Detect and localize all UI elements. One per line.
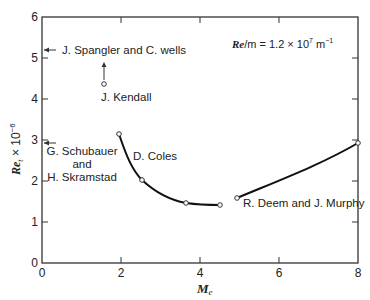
y-tick-6: 6 xyxy=(31,10,38,24)
y-tick-3: 3 xyxy=(31,133,38,147)
y-tick-labels: 0 1 2 3 4 5 6 xyxy=(31,10,38,270)
x-tick-8: 8 xyxy=(355,266,362,280)
svg-text:and: and xyxy=(72,158,91,170)
label-spangler: J. Spangler and C. wells xyxy=(62,44,186,56)
kendall-marker xyxy=(102,62,107,86)
label-schubauer: G. Schubauer and H. Skramstad xyxy=(47,145,118,183)
coles-points xyxy=(117,132,223,208)
y-tick-5: 5 xyxy=(31,51,38,65)
arrow-up-icon xyxy=(102,62,107,67)
x-tick-2: 2 xyxy=(118,266,125,280)
y-tick-2: 2 xyxy=(31,174,38,188)
y-tick-0: 0 xyxy=(31,256,38,270)
x-tick-labels: 0 2 4 6 8 xyxy=(39,266,362,280)
y-tick-1: 1 xyxy=(31,215,38,229)
spangler-marker xyxy=(44,48,56,53)
label-kendall: J. Kendall xyxy=(101,91,152,103)
annotation-re-per-m: Re/m = 1.2 × 107 m−1 xyxy=(231,37,333,50)
coles-curve xyxy=(119,134,220,205)
arrow-left-icon xyxy=(44,48,49,53)
svg-text:H. Skramstad: H. Skramstad xyxy=(47,171,117,183)
y-tick-4: 4 xyxy=(31,92,38,106)
x-tick-4: 4 xyxy=(197,266,204,280)
kendall-point xyxy=(102,82,107,87)
label-deem: R. Deem and J. Murphy xyxy=(243,197,365,209)
chart-figure: 0 1 2 3 4 5 6 0 2 4 6 8 Me Ret × 10−6 Re… xyxy=(0,0,370,300)
label-coles: D. Coles xyxy=(133,150,177,162)
y-axis-label: Ret × 10−6 xyxy=(8,123,25,176)
x-tick-6: 6 xyxy=(276,266,283,280)
svg-text:G. Schubauer: G. Schubauer xyxy=(47,145,118,157)
x-axis-label: Me xyxy=(196,281,213,297)
deem-curve xyxy=(237,143,358,198)
x-tick-0: 0 xyxy=(39,266,46,280)
